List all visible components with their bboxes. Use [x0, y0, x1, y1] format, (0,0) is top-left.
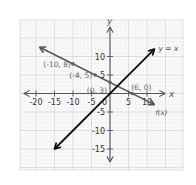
series-fx-point	[93, 73, 97, 77]
y-tick-label: 10	[95, 53, 105, 62]
chart: -20-15-10-5510105-5-10-150 xy(-10, 8)(-4…	[0, 0, 196, 185]
point-label: (-10, 8)	[43, 60, 71, 69]
series-identity-label: y = x	[157, 44, 178, 53]
x-tick-label: -15	[48, 98, 61, 107]
x-tick-label: -5	[88, 98, 96, 107]
x-tick-label: 5	[126, 98, 131, 107]
series-fx-point	[130, 92, 134, 96]
y-tick-label: -15	[92, 145, 105, 154]
point-label: (0, 3)	[87, 86, 107, 95]
y-tick-label: -10	[92, 127, 105, 136]
series-fx-label: f(x)	[155, 109, 167, 117]
series-fx-point	[71, 62, 75, 66]
y-axis-label: y	[106, 16, 113, 26]
point-label: (-4, 5)	[69, 71, 92, 80]
x-tick-label: -10	[66, 98, 79, 107]
series-fx-point	[108, 81, 112, 85]
y-tick-label: -5	[97, 108, 105, 117]
x-tick-label: -20	[29, 98, 42, 107]
point-label: (6, 0)	[131, 83, 151, 92]
x-axis-label: x	[168, 89, 175, 99]
